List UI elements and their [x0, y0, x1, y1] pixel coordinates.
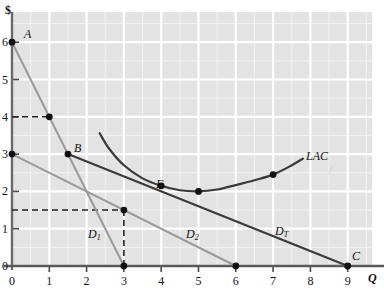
- point-label-f: F: [156, 178, 163, 190]
- x-tick-label-7: 7: [263, 275, 283, 287]
- data-point-marker: [121, 263, 128, 270]
- curve-label-d2: D2: [186, 228, 199, 242]
- dashed-guide-lines: [12, 117, 124, 266]
- x-tick-label-4: 4: [151, 275, 171, 287]
- curve-label-d2-sub: 2: [195, 233, 199, 242]
- x-tick-label-6: 6: [226, 275, 246, 287]
- x-tick-label-2: 2: [77, 275, 97, 287]
- point-label-c: C: [352, 250, 360, 262]
- y-tick-label-6: 6: [0, 36, 10, 48]
- data-point-marker: [121, 207, 128, 214]
- curve-label-d1-sub: 1: [97, 233, 101, 242]
- data-point-marker: [195, 188, 202, 195]
- data-point-marker: [65, 151, 72, 158]
- y-tick-label-5: 5: [0, 74, 10, 86]
- y-tick-label-3: 3: [0, 148, 10, 160]
- curve-label-d2-base: D: [186, 227, 195, 241]
- point-label-a: A: [24, 28, 31, 40]
- curve-label-d1-base: D: [88, 227, 97, 241]
- data-curves: [0, 0, 384, 292]
- curve-label-dt-sub: T: [284, 230, 288, 239]
- data-point-markers: [9, 39, 352, 270]
- x-tick-label-8: 8: [300, 275, 320, 287]
- y-tick-label-1: 1: [0, 223, 10, 235]
- data-point-marker: [232, 263, 239, 270]
- data-point-marker: [270, 171, 277, 178]
- y-tick-label-0: 0: [0, 260, 10, 272]
- curve-label-dt-base: D: [275, 224, 284, 238]
- chart-figure: $ Q 01234567890123456 A B C F D1 D2 DT L…: [0, 0, 384, 292]
- point-label-b: B: [74, 142, 81, 154]
- series-line-dt: [68, 154, 348, 266]
- curve-label-lac: LAC: [306, 150, 328, 162]
- data-point-marker: [344, 263, 351, 270]
- x-tick-label-5: 5: [189, 275, 209, 287]
- y-axis-title: $: [5, 4, 11, 16]
- y-tick-label-2: 2: [0, 185, 10, 197]
- y-tick-label-4: 4: [0, 111, 10, 123]
- x-tick-label-3: 3: [114, 275, 134, 287]
- curve-label-d1: D1: [88, 228, 101, 242]
- data-point-marker: [46, 113, 53, 120]
- curve-label-lac-base: LAC: [306, 149, 328, 163]
- x-tick-label-1: 1: [39, 275, 59, 287]
- x-tick-label-9: 9: [338, 275, 358, 287]
- curve-label-dt: DT: [275, 225, 288, 239]
- x-axis-title: Q: [368, 272, 377, 284]
- x-tick-label-0: 0: [2, 275, 22, 287]
- series-lines: [12, 42, 348, 266]
- series-line-lac: [100, 133, 303, 191]
